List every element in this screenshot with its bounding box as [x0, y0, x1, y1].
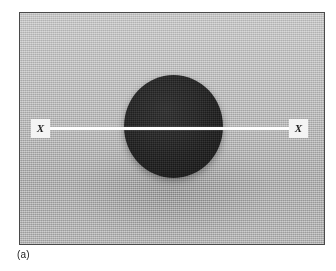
section-label-left: X — [31, 119, 50, 138]
photo-frame: X X — [19, 12, 325, 245]
section-line — [43, 127, 305, 130]
figure-root: X X (a) — [0, 0, 336, 271]
section-label-right: X — [289, 119, 308, 138]
figure-caption: (a) — [17, 249, 30, 261]
